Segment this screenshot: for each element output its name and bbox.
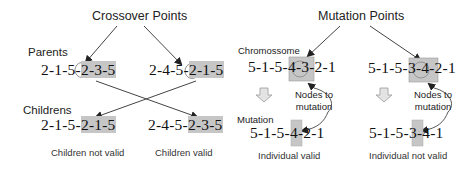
nodes-to-mutation-label-left: Nodes to mutation xyxy=(295,89,333,113)
genetic-operators-diagram: Crossover Points Parents 2-1-5-2-3-5 2-4… xyxy=(0,0,469,170)
left-original-sequence: 5-1-5-4-3-2-1 xyxy=(248,58,336,76)
right-original-sequence: 5-1-5-3-4-2-1 xyxy=(368,59,456,77)
mutation-title: Mutation Points xyxy=(318,9,404,23)
parent2-prefix: 2-4-5- xyxy=(149,61,189,78)
child2-prefix: 2-4-5- xyxy=(148,116,188,133)
child1-caption: Children not valid xyxy=(51,147,124,158)
parent1-segment: 2-3-5 xyxy=(81,61,116,78)
left-original-suffix: -1 xyxy=(323,58,336,75)
child1-prefix: 2-1-5- xyxy=(41,116,81,133)
right-original-suffix: -1 xyxy=(443,59,456,76)
right-original-segment: 4-2 xyxy=(421,59,442,76)
child2-sequence: 2-4-5-2-3-5 xyxy=(148,116,223,134)
crossover-title: Crossover Points xyxy=(92,9,187,23)
child2-segment: 2-3-5 xyxy=(188,116,223,133)
right-mutated-prefix: 5-1-5-3- xyxy=(369,124,422,141)
left-individual-caption: Individual valid xyxy=(258,150,320,161)
child1-sequence: 2-1-5-2-1-5 xyxy=(41,116,116,134)
down-arrow-icon-right xyxy=(376,88,392,102)
right-mutated-sequence: 5-1-5-3-4-1 xyxy=(369,124,444,142)
arrow-crossover-parent1 xyxy=(86,26,117,62)
down-arrow-icon-left xyxy=(256,88,272,102)
parents-label: Parents xyxy=(28,46,68,58)
parent2-sequence: 2-4-5-2-1-5 xyxy=(149,61,224,79)
right-mutated-segment: 4 xyxy=(422,124,430,141)
parent1-sequence: 2-1-5-2-3-5 xyxy=(41,61,116,79)
chromosome-label: Chromossome xyxy=(238,45,300,56)
arrow-crossover-parent2 xyxy=(144,26,181,64)
parent1-prefix: 2-1-5- xyxy=(41,61,81,78)
right-mutated-suffix: -1 xyxy=(430,124,443,141)
parent2-segment: 2-1-5 xyxy=(189,61,224,78)
left-original-prefix: 5-1-5-4- xyxy=(248,58,301,75)
left-mutated-segment: 2 xyxy=(303,124,311,141)
right-original-prefix: 5-1-5-3- xyxy=(368,59,421,76)
child1-segment: 2-1-5 xyxy=(81,116,116,133)
nodes-to-mutation-label-right: Nodes to mutation xyxy=(414,89,452,113)
arrow-mutation-left xyxy=(308,26,340,56)
right-individual-caption: Individual not valid xyxy=(369,150,447,161)
left-original-segment: 3-2 xyxy=(301,58,322,75)
diagram-connectors xyxy=(0,0,469,170)
left-mutated-sequence: 5-1-5-4-2-1 xyxy=(250,124,325,142)
childrens-label: Childrens xyxy=(23,104,72,116)
left-mutated-prefix: 5-1-5-4- xyxy=(250,124,303,141)
arrow-mutation-right xyxy=(370,26,420,60)
child2-caption: Children valid xyxy=(155,147,213,158)
left-mutated-suffix: -1 xyxy=(311,124,324,141)
